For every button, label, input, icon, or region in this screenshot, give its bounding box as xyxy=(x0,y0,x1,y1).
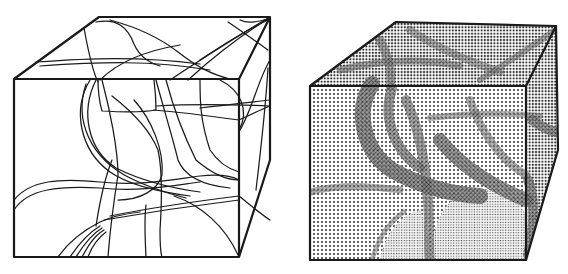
figure xyxy=(0,0,568,274)
cube-edges xyxy=(14,17,270,257)
figure-canvas xyxy=(0,0,568,274)
intersection-curves xyxy=(14,18,270,257)
left-cube-line-drawing xyxy=(14,17,270,257)
right-cube-halftone xyxy=(310,22,558,260)
